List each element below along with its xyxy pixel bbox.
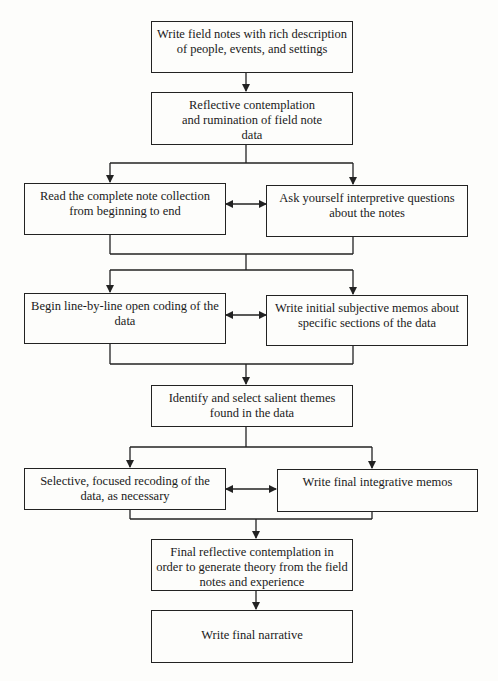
- node-label: Selective, focused recoding of the data,…: [25, 474, 225, 504]
- node-label: Ask yourself interpretive questions abou…: [267, 191, 467, 221]
- node-label: Begin line-by-line open coding of the da…: [25, 299, 225, 329]
- node-integrative-memos: Write final integrative memos: [277, 469, 478, 512]
- node-read-notes: Read the complete note collection from b…: [24, 183, 226, 235]
- node-label: Write final integrative memos: [278, 475, 477, 490]
- node-initial-memos: Write initial subjective memos about spe…: [266, 295, 468, 346]
- node-open-coding: Begin line-by-line open coding of the da…: [24, 293, 226, 344]
- node-label: Read the complete note collection from b…: [25, 189, 225, 219]
- node-reflective-contemplation: Reflective contemplation and rumination …: [151, 92, 353, 145]
- node-field-notes: Write field notes with rich description …: [151, 21, 353, 73]
- node-salient-themes: Identify and select salient themes found…: [151, 385, 353, 427]
- node-ask-questions: Ask yourself interpretive questions abou…: [266, 185, 468, 237]
- flowchart: Write field notes with rich description …: [0, 0, 498, 681]
- node-label: Write field notes with rich description …: [152, 27, 352, 57]
- node-final-narrative: Write final narrative: [151, 610, 353, 663]
- node-label: Write final narrative: [152, 628, 352, 643]
- node-label: Final reflective contemplation in order …: [152, 545, 352, 590]
- node-final-reflective: Final reflective contemplation in order …: [151, 539, 353, 591]
- node-label: Reflective contemplation and rumination …: [152, 98, 352, 143]
- node-label: Write initial subjective memos about spe…: [267, 301, 467, 331]
- node-focused-recoding: Selective, focused recoding of the data,…: [24, 468, 226, 510]
- node-label: Identify and select salient themes found…: [152, 391, 352, 421]
